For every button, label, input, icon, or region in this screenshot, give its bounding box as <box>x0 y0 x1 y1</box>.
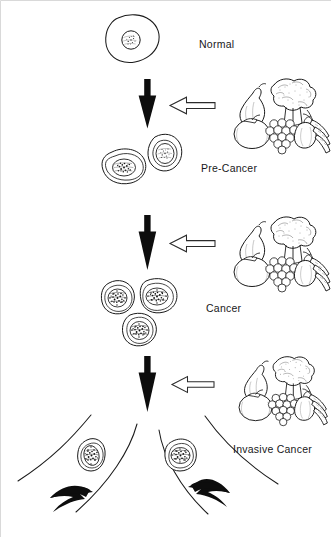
precancer-cell-group <box>102 134 182 184</box>
invasion-arrow-right <box>188 479 230 507</box>
food-cluster-3 <box>239 357 327 426</box>
carcinogenesis-diagram: Normal Pre-Cancer Cancer Invasive Cancer <box>0 0 331 537</box>
broccoli-icon <box>271 217 316 263</box>
arrow-precancer-to-cancer <box>139 215 157 270</box>
tomato-icon <box>239 390 272 421</box>
cancer-cell-1 <box>101 281 134 314</box>
normal-cell-group <box>106 15 159 63</box>
diet-arrow-3 <box>172 377 214 393</box>
diagram-canvas <box>0 0 331 537</box>
grapes-icon <box>268 393 298 425</box>
grapes-icon <box>266 257 298 292</box>
arrow-normal-to-precancer <box>139 79 157 129</box>
precancer-cell-1 <box>148 134 182 171</box>
diet-arrow-2 <box>170 235 215 252</box>
cancer-cell-3 <box>122 313 156 346</box>
invasion-arrow-left <box>50 486 93 512</box>
stage-label-cancer: Cancer <box>206 303 241 314</box>
broccoli-icon <box>271 79 316 125</box>
stage-label-invasive-cancer: Invasive Cancer <box>233 444 312 455</box>
invasive-cell-right <box>165 439 196 471</box>
cancer-cell-group <box>101 279 177 346</box>
diet-arrow-1 <box>170 97 215 114</box>
invasive-channels <box>18 415 278 514</box>
tomato-icon <box>234 115 270 149</box>
precancer-cell-2 <box>102 149 146 184</box>
broccoli-icon <box>273 357 314 400</box>
food-cluster-2 <box>234 217 330 292</box>
stage-label-normal: Normal <box>199 39 234 50</box>
grapes-icon <box>266 119 298 154</box>
food-cluster-1 <box>234 79 330 154</box>
stage-label-pre-cancer: Pre-Cancer <box>201 163 257 174</box>
invasive-cell-left <box>78 439 105 471</box>
arrow-cancer-to-invasive <box>139 356 157 412</box>
tomato-icon <box>234 253 270 287</box>
cancer-cell-2 <box>140 279 177 313</box>
